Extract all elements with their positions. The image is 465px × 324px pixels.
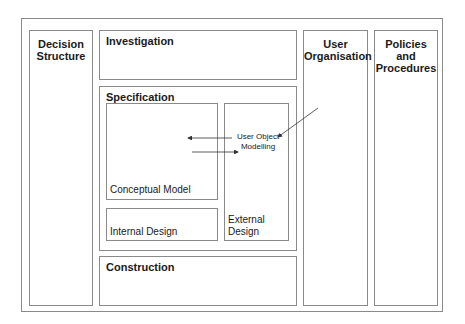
arrow-from-user-organisation [278,108,318,137]
arrows-layer [0,0,465,324]
